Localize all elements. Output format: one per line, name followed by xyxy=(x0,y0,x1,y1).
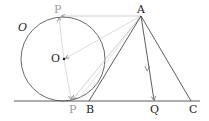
center-point xyxy=(63,58,66,61)
side-ab xyxy=(89,16,141,101)
line-o-pbottom xyxy=(64,60,71,99)
label-p-bottom: P xyxy=(69,103,77,116)
line-a-tangent xyxy=(80,16,141,98)
label-a: A xyxy=(136,3,146,16)
label-circle-o: O xyxy=(18,21,27,34)
line-a-o xyxy=(66,16,141,58)
geometry-diagram: O P O P A B Q C xyxy=(0,0,209,121)
label-q: Q xyxy=(150,103,159,116)
label-p-top: P xyxy=(54,3,62,16)
label-c: C xyxy=(189,103,197,116)
label-b: B xyxy=(86,103,94,116)
label-o: O xyxy=(51,52,60,65)
side-ac xyxy=(141,16,191,101)
segment-aq xyxy=(141,16,154,100)
line-a-pbottom xyxy=(73,16,141,99)
